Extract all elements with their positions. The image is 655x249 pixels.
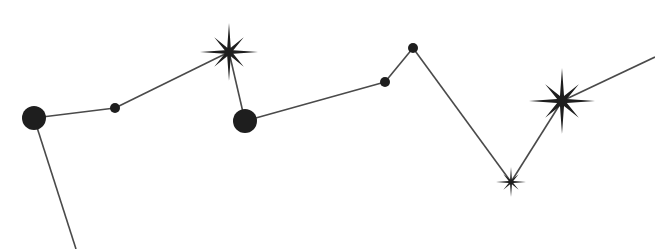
connection-line [34,118,76,249]
eight-point-star-icon [496,167,526,197]
dot-star-icon [233,109,257,133]
star-markers [22,23,595,197]
connection-line [413,48,511,182]
constellation-diagram [0,0,655,249]
connection-line [562,57,655,101]
connection-line [245,82,385,121]
connection-line [34,108,115,118]
eight-point-star-icon [529,68,595,134]
constellation-svg [0,0,655,249]
dot-star-icon [408,43,418,53]
dot-star-icon [380,77,390,87]
dot-star-icon [22,106,46,130]
connection-line [115,52,229,108]
dot-star-icon [110,103,120,113]
eight-point-star-icon [200,23,258,81]
connection-line [385,48,413,82]
connection-line [511,101,562,182]
